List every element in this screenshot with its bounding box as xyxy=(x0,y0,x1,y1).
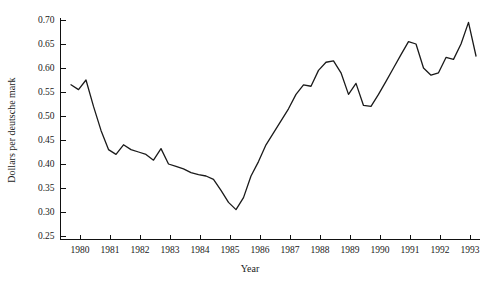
x-tick-label: 1988 xyxy=(311,245,330,255)
x-tick-label: 1985 xyxy=(221,245,240,255)
x-tick-label: 1989 xyxy=(341,245,360,255)
x-axis-title: Year xyxy=(241,263,260,274)
y-tick-label: 0.50 xyxy=(38,111,55,121)
x-tick-label: 1990 xyxy=(371,245,390,255)
y-tick-label: 0.55 xyxy=(38,87,55,97)
y-axis-title: Dollars per deutsche mark xyxy=(6,77,17,182)
x-tick-label: 1993 xyxy=(461,245,480,255)
x-tick-label: 1980 xyxy=(71,245,90,255)
y-tick-label: 0.35 xyxy=(38,183,55,193)
line-chart: 0.250.300.350.400.450.500.550.600.650.70… xyxy=(0,0,487,285)
x-tick-label: 1982 xyxy=(131,245,150,255)
y-tick-label: 0.40 xyxy=(38,159,55,169)
x-tick-label: 1991 xyxy=(401,245,420,255)
x-tick-label: 1981 xyxy=(101,245,120,255)
x-tick-label: 1983 xyxy=(161,245,180,255)
y-tick-label: 0.60 xyxy=(38,63,55,73)
y-tick-label: 0.45 xyxy=(38,135,55,145)
x-tick-label: 1986 xyxy=(251,245,270,255)
x-tick-label: 1987 xyxy=(281,245,300,255)
x-tick-label: 1984 xyxy=(191,245,210,255)
y-tick-label: 0.70 xyxy=(38,15,55,25)
y-tick-label: 0.65 xyxy=(38,39,55,49)
x-tick-label: 1992 xyxy=(431,245,450,255)
chart-figure: 0.250.300.350.400.450.500.550.600.650.70… xyxy=(0,0,487,285)
y-tick-label: 0.30 xyxy=(38,207,55,217)
y-tick-label: 0.25 xyxy=(38,231,55,241)
